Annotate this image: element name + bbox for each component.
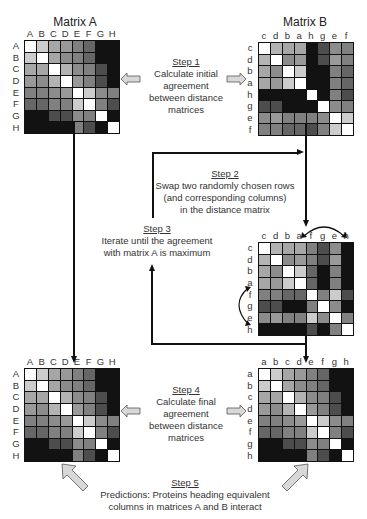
matrix-cell [318, 290, 329, 301]
matrix-cell [37, 439, 48, 450]
matrix-cell [96, 381, 107, 392]
matrix-cell [330, 290, 341, 301]
matrix-cell [49, 392, 60, 403]
matrix-cell [271, 266, 282, 277]
matrix-cell [271, 278, 282, 289]
matrix-cell [342, 43, 353, 54]
matrix-cell [108, 369, 119, 380]
matrix-cell [271, 324, 282, 335]
matrix-cell [330, 278, 341, 289]
matrix-cell [49, 381, 60, 392]
matrix-cell [49, 404, 60, 415]
row-label: a [245, 368, 255, 380]
matrix-cell [330, 324, 341, 335]
matrix-cell [259, 392, 270, 403]
matrix-cell [283, 113, 294, 124]
step-text: with matrix A is maximum [92, 247, 222, 259]
matrix-cell [259, 124, 270, 135]
matrix-cell [283, 381, 294, 392]
matrix-cell [330, 313, 341, 324]
row-label: d [245, 254, 255, 266]
matrix-cell [84, 369, 95, 380]
matrix-cell [25, 64, 36, 75]
matrix-cell [108, 404, 119, 415]
step-3: Step 3Iterate until the agreementwith ma… [92, 223, 222, 259]
distance-grid [24, 368, 120, 462]
matrix-cell [271, 101, 282, 112]
matrix-cell [84, 99, 95, 110]
matrix-cell [318, 324, 329, 335]
matrix-cell [295, 381, 306, 392]
matrix-cell [271, 78, 282, 89]
row-label: e [245, 112, 255, 124]
row-label: h [245, 450, 255, 462]
step-label: Step 2 [150, 168, 300, 180]
column-label: h [305, 31, 317, 41]
matrix-cell [271, 124, 282, 135]
matrix-cell [307, 101, 318, 112]
matrix-cell [73, 88, 84, 99]
matrix-cell [330, 301, 341, 312]
swap-curve-rows-icon [234, 284, 254, 328]
matrix-cell [330, 66, 341, 77]
matrix-cell [25, 53, 36, 64]
matrix-cell [96, 99, 107, 110]
matrix-cell [37, 392, 48, 403]
step-1: Step 1Calculate initialagreementbetween … [138, 56, 234, 116]
matrix-cell [49, 53, 60, 64]
column-label: C [48, 29, 60, 39]
step-text: between distance [138, 420, 234, 432]
matrix-cell [259, 439, 270, 450]
block-arrow-right-step4 [226, 405, 246, 417]
matrix-cell [271, 290, 282, 301]
matrix-cell [96, 111, 107, 122]
matrix-cell [259, 255, 270, 266]
matrix-cell [342, 301, 353, 312]
matrix-cell [342, 416, 353, 427]
matrix-cell [295, 124, 306, 135]
matrix-cell [318, 243, 329, 254]
column-label: b [282, 231, 294, 241]
column-label: c [258, 31, 270, 41]
matrix-cell [342, 290, 353, 301]
matrix-cell [295, 255, 306, 266]
row-label: d [245, 54, 255, 66]
matrix-cell [108, 88, 119, 99]
matrix-cell [307, 43, 318, 54]
matrix-cell [307, 313, 318, 324]
matrix-cell [37, 427, 48, 438]
matrix-cell [318, 369, 329, 380]
matrix-cell [295, 439, 306, 450]
matrix-cell [271, 255, 282, 266]
matrix-cell [271, 301, 282, 312]
matrix-cell [96, 64, 107, 75]
matrix-cell [61, 381, 72, 392]
column-label: f [340, 31, 352, 41]
matrix-cell [61, 416, 72, 427]
matrix-cell [330, 124, 341, 135]
matrix-cell [318, 66, 329, 77]
matrix-cell [37, 76, 48, 87]
matrix-cell [307, 113, 318, 124]
step-5: Step 5Predictions: Proteins heading equi… [80, 477, 290, 513]
matrix-cell [108, 41, 119, 52]
matrix-cell [271, 113, 282, 124]
matrix-cell [73, 439, 84, 450]
column-label: E [71, 29, 83, 39]
matrix-cell [259, 55, 270, 66]
arrowhead-a-down [71, 356, 77, 363]
matrix-cell [318, 381, 329, 392]
matrix-cell [84, 122, 95, 133]
matrix-cell [295, 301, 306, 312]
step-text: in the distance matrix [150, 204, 300, 216]
matrix-cell [96, 450, 107, 461]
matrix-cell [307, 78, 318, 89]
matrix-cell [295, 101, 306, 112]
matrix-cell [37, 369, 48, 380]
column-label: C [48, 357, 60, 367]
matrix-cell [84, 64, 95, 75]
matrix-cell [108, 64, 119, 75]
matrix-cell [84, 88, 95, 99]
matrix-cell [49, 439, 60, 450]
column-label: e [329, 31, 341, 41]
